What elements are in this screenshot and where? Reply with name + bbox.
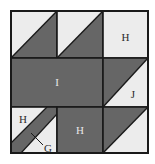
cell-r3c3 [103,107,148,153]
geometric-block-diagram: H I J H G [0,0,155,164]
cell-r1c3: H [103,11,148,58]
label-h-bottom-middle: H [76,124,84,136]
cell-r3c2: H [57,107,103,153]
cell-r1c1 [11,11,57,58]
label-h-top-right: H [122,31,130,43]
label-i-center: I [55,76,59,88]
cell-r2c1c2: I [11,58,103,107]
figure-root: H I J H G [0,0,155,164]
label-g-callout: G [44,142,52,154]
label-j-middle-right: J [131,88,136,100]
cell-r3c1: H G [11,107,57,154]
label-h-bottom-left: H [19,113,27,125]
cell-r1c2 [57,11,103,58]
cell-r2c3: J [103,58,148,107]
